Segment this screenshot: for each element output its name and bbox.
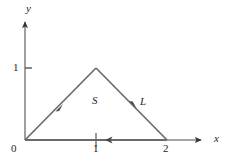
x-tick-label-1: 1 [93,143,99,154]
curve-label-l: L [140,96,146,107]
y-tick-label-1: 1 [13,62,19,73]
figure-graphics [0,0,232,160]
y-axis-label: y [26,3,31,14]
y-axis [25,22,32,140]
triangle-edge-right [96,68,167,140]
triangle-edge-left [25,68,96,140]
x-tick-label-2: 2 [163,143,169,154]
x-axis-label: x [214,133,219,144]
region-label-s: S [92,95,98,106]
origin-label: 0 [11,143,17,154]
direction-marker-right-edge [129,101,137,109]
figure-canvas: y x 0 1 1 2 S L [0,0,232,160]
